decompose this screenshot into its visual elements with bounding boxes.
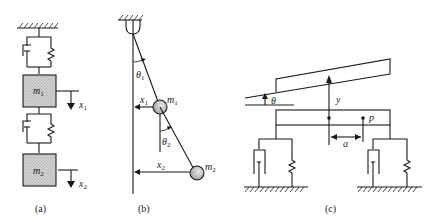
angle-theta1: θ1 [133, 58, 146, 82]
offset-a-dimension: a [331, 118, 363, 149]
svg-text:x2: x2 [156, 159, 165, 172]
angle-theta-c: θ [245, 93, 294, 106]
svg-text:p: p [368, 112, 374, 123]
displacement-x1-a: x1 [56, 91, 87, 112]
panel-c: θ y p a [244, 59, 422, 215]
figure-canvas: m1 x1 m2 [0, 0, 435, 224]
svg-text:x2: x2 [78, 178, 87, 191]
spring-icon [48, 46, 54, 67]
mass-label-m2-b: m2 [205, 161, 216, 174]
spring-damper-1 [23, 28, 54, 74]
spring-icon [289, 158, 295, 187]
angle-theta2: θ2 [160, 126, 172, 149]
pivot-support-b [118, 15, 143, 34]
svg-text:a: a [343, 138, 348, 149]
caption-c: (c) [325, 203, 336, 215]
damper-icon [23, 121, 31, 143]
damper-icon [23, 45, 31, 67]
spring-icon [48, 122, 54, 143]
mass-m1-a: m1 [23, 75, 56, 107]
svg-text:y: y [335, 94, 341, 105]
spring-damper-2 [23, 107, 54, 153]
spring-icon [404, 158, 410, 187]
tilted-bar [245, 59, 390, 98]
panel-b: θ1 m1 x1 θ2 m2 x2 (b) [118, 15, 216, 215]
svg-text:θ1: θ1 [136, 69, 145, 82]
left-suspension [244, 125, 308, 192]
damper-icon [368, 150, 379, 187]
displacement-x1-b: x1 [134, 94, 153, 110]
displacement-x2-a: x2 [58, 170, 87, 191]
mass-m2-b [190, 166, 204, 180]
damper-icon [254, 150, 265, 187]
mass-m2-a: m2 [23, 154, 56, 186]
svg-text:x1: x1 [78, 99, 87, 112]
caption-a: (a) [35, 203, 46, 215]
svg-text:θ: θ [271, 95, 276, 106]
svg-text:θ2: θ2 [162, 136, 171, 149]
caption-b: (b) [138, 203, 150, 215]
svg-text:x1: x1 [139, 94, 148, 107]
right-suspension [357, 125, 422, 192]
panel-a: m1 x1 m2 [17, 23, 87, 215]
center-of-mass-point [327, 116, 331, 120]
displacement-x2-b: x2 [134, 159, 190, 175]
mass-label-m1-b: m1 [167, 94, 178, 107]
fixed-support-a [17, 23, 58, 28]
